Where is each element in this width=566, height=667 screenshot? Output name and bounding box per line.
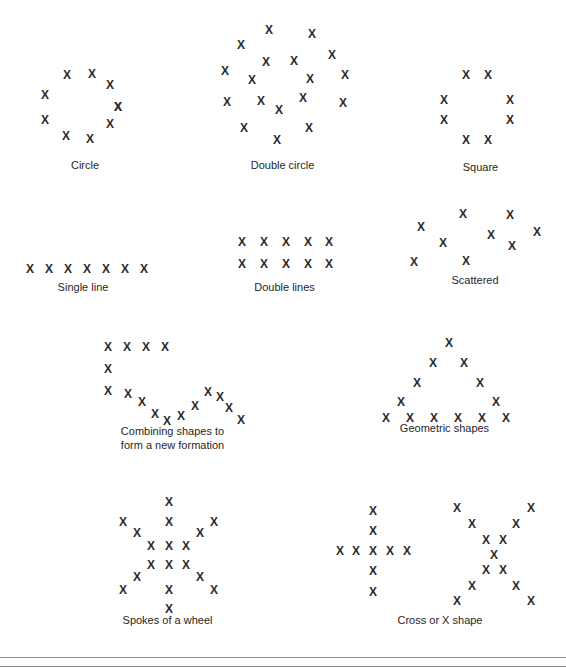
x-mark: X	[265, 24, 273, 36]
x-mark: X	[352, 545, 360, 557]
x-mark: X	[339, 97, 347, 109]
x-mark: X	[240, 122, 248, 134]
x-mark: X	[237, 39, 245, 51]
pattern-group-cross-or-x-shape: XXXXXXXXXXXXXXXXXXXXXXCross or X shape	[335, 500, 545, 610]
x-mark: X	[124, 388, 132, 400]
x-mark: X	[499, 564, 507, 576]
pattern-label-circle: Circle	[20, 158, 150, 172]
x-mark: X	[147, 559, 155, 571]
x-mark: X	[462, 134, 470, 146]
x-mark: X	[102, 263, 110, 275]
x-mark: X	[260, 258, 268, 270]
x-mark: X	[114, 101, 122, 113]
x-mark: X	[41, 114, 49, 126]
x-mark: X	[429, 357, 437, 369]
marks-area-double-circle: XXXXXXXXXXXXXXXXXX	[215, 18, 350, 153]
x-mark: X	[397, 396, 405, 408]
x-mark: X	[328, 49, 336, 61]
x-mark: X	[512, 580, 520, 592]
x-mark: X	[238, 236, 246, 248]
x-mark: X	[104, 385, 112, 397]
x-mark: X	[341, 69, 349, 81]
marks-area-circle: XXXXXXXXXX	[20, 58, 150, 153]
x-mark: X	[482, 564, 490, 576]
x-mark: X	[410, 256, 418, 268]
x-mark: X	[468, 580, 476, 592]
x-mark: X	[506, 114, 514, 126]
x-mark: X	[369, 565, 377, 577]
x-mark: X	[165, 584, 173, 596]
x-mark: X	[304, 236, 312, 248]
x-mark: X	[138, 396, 146, 408]
x-mark: X	[41, 89, 49, 101]
pattern-group-single-line: XXXXXXXSingle line	[18, 258, 148, 280]
x-mark: X	[64, 263, 72, 275]
x-mark: X	[282, 236, 290, 248]
x-mark: X	[506, 209, 514, 221]
x-mark: X	[62, 130, 70, 142]
x-mark: X	[533, 226, 541, 238]
formation-patterns-figure: XXXXXXXXXXCircleXXXXXXXXXXXXXXXXXXDouble…	[0, 0, 566, 667]
x-mark: X	[140, 263, 148, 275]
x-mark: X	[257, 95, 265, 107]
x-mark: X	[499, 534, 507, 546]
x-mark: X	[196, 527, 204, 539]
x-mark: X	[151, 408, 159, 420]
x-mark: X	[482, 534, 490, 546]
x-mark: X	[305, 122, 313, 134]
x-mark: X	[439, 237, 447, 249]
x-mark: X	[221, 65, 229, 77]
x-mark: X	[453, 502, 461, 514]
x-mark: X	[290, 55, 298, 67]
x-mark: X	[177, 410, 185, 422]
pattern-group-combining-shapes: XXXXXXXXXXXXXXXXCombining shapes to form…	[95, 338, 250, 423]
x-mark: X	[490, 549, 498, 561]
x-mark: X	[63, 69, 71, 81]
x-mark: X	[225, 402, 233, 414]
marks-area-double-lines: XXXXXXXXXX	[232, 232, 337, 280]
x-mark: X	[403, 545, 411, 557]
x-mark: X	[123, 341, 131, 353]
x-mark: X	[165, 516, 173, 528]
pattern-group-scattered: XXXXXXXXXScattered	[405, 205, 545, 275]
x-mark: X	[210, 584, 218, 596]
x-mark: X	[462, 255, 470, 267]
x-mark: X	[275, 104, 283, 116]
pattern-group-geometric-shapes: XXXXXXXXXXXXXGeometric shapes	[372, 335, 517, 420]
x-mark: X	[104, 363, 112, 375]
x-mark: X	[453, 595, 461, 607]
x-mark: X	[459, 208, 467, 220]
x-mark: X	[165, 496, 173, 508]
x-mark: X	[282, 258, 290, 270]
x-mark: X	[336, 545, 344, 557]
x-mark: X	[325, 258, 333, 270]
x-mark: X	[369, 586, 377, 598]
x-mark: X	[216, 391, 224, 403]
pattern-group-double-lines: XXXXXXXXXXDouble lines	[232, 232, 337, 280]
x-mark: X	[506, 94, 514, 106]
x-mark: X	[487, 229, 495, 241]
x-mark: X	[527, 502, 535, 514]
x-mark: X	[445, 337, 453, 349]
pattern-group-double-circle: XXXXXXXXXXXXXXXXXXDouble circle	[215, 18, 350, 153]
pattern-group-spokes-of-a-wheel: XXXXXXXXXXXXXXXXXXSpokes of a wheel	[110, 495, 225, 610]
x-mark: X	[248, 74, 256, 86]
x-mark: X	[273, 134, 281, 146]
marks-area-square: XXXXXXXX	[428, 60, 533, 150]
x-mark: X	[304, 258, 312, 270]
x-mark: X	[369, 505, 377, 517]
x-mark: X	[476, 377, 484, 389]
x-mark: X	[142, 341, 150, 353]
x-mark: X	[484, 134, 492, 146]
pattern-label-spokes-of-a-wheel: Spokes of a wheel	[110, 613, 225, 627]
x-mark: X	[196, 571, 204, 583]
x-mark: X	[440, 94, 448, 106]
x-mark: X	[468, 518, 476, 530]
x-mark: X	[512, 518, 520, 530]
pattern-group-square: XXXXXXXXSquare	[428, 60, 533, 150]
pattern-label-square: Square	[428, 160, 533, 174]
x-mark: X	[26, 263, 34, 275]
bottom-divider	[0, 657, 566, 658]
x-mark: X	[133, 571, 141, 583]
x-mark: X	[182, 559, 190, 571]
